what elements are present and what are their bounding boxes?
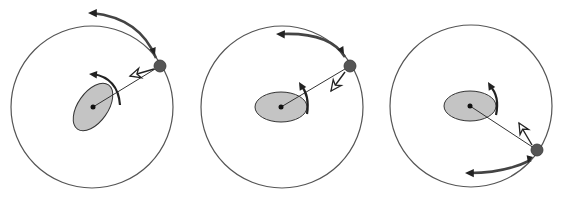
orbit-motion-arrow [92,13,156,58]
tidal-force-open-arrow-icon [327,80,341,94]
tidal-force-open-arrow-icon [515,120,529,134]
panel-1 [11,9,173,188]
center-dot [91,105,96,110]
panel-3 [390,25,552,187]
satellite-ball [154,60,166,72]
satellite-ball [531,144,543,156]
center-dot [468,104,473,109]
satellite-ball [344,60,356,72]
diagram-canvas [0,0,562,203]
orbit-arrow-head-icon [276,30,285,39]
orbit-arrow-head-icon [465,169,474,177]
center-dot [279,105,284,110]
orbit-arrow-head-icon [88,9,97,17]
orbit-diagram [0,0,562,203]
panel-2 [201,26,363,188]
spin-arrow-head-icon [89,70,98,78]
orbit-motion-arrow [470,160,531,173]
orbit-motion-arrow [281,34,345,57]
